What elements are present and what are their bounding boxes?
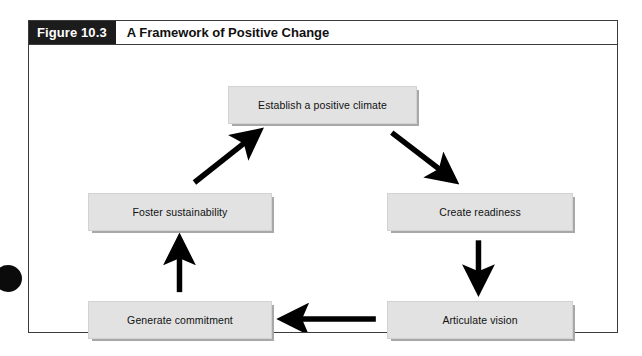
node-label: Articulate vision xyxy=(442,314,517,326)
arrow-establish-to-readiness xyxy=(392,133,452,179)
diagram-canvas: Establish a positive climate Create read… xyxy=(29,45,617,332)
node-articulate-vision[interactable]: Articulate vision xyxy=(387,301,573,339)
figure-number-label: Figure 10.3 xyxy=(29,21,116,44)
figure-frame: Figure 10.3 A Framework of Positive Chan… xyxy=(28,20,618,333)
node-establish-positive-climate[interactable]: Establish a positive climate xyxy=(228,86,417,124)
node-label: Foster sustainability xyxy=(133,206,228,218)
scan-artifact-blob xyxy=(0,265,22,292)
node-label: Generate commitment xyxy=(127,314,233,326)
node-generate-commitment[interactable]: Generate commitment xyxy=(88,301,272,339)
arrow-sustainability-to-establish xyxy=(194,134,256,183)
node-label: Establish a positive climate xyxy=(258,99,387,111)
node-create-readiness[interactable]: Create readiness xyxy=(387,193,573,231)
figure-header: Figure 10.3 A Framework of Positive Chan… xyxy=(29,21,617,45)
figure-title: A Framework of Positive Change xyxy=(116,21,617,44)
node-label: Create readiness xyxy=(439,206,521,218)
node-foster-sustainability[interactable]: Foster sustainability xyxy=(88,193,272,231)
